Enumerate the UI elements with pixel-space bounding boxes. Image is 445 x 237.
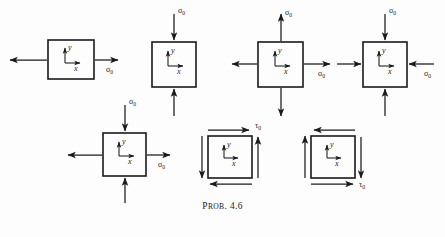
axis-label-y: y (226, 140, 231, 149)
stress-label-sigma-right: σ0 (318, 69, 325, 79)
stress-element-7: y x τ0 (305, 130, 365, 190)
axis-cross: y x (168, 46, 183, 76)
axis-label-x: x (387, 67, 392, 76)
axis-label-x: x (73, 64, 78, 73)
axis-cross: y x (65, 43, 80, 73)
axis-cross: y x (327, 140, 341, 168)
stress-label-sigma-right: σ0 (158, 160, 165, 170)
stress-element-4: y x σ0 σ0 (337, 6, 434, 116)
axis-label-y: y (277, 46, 282, 55)
axis-cross: y x (275, 46, 290, 76)
stress-element-5: y x σ0 σ0 (68, 97, 170, 203)
stress-label-sigma-top: σ0 (285, 8, 292, 18)
stress-element-1: y x σ0 (10, 40, 118, 79)
stress-element-2: y x σ0 (152, 6, 196, 116)
figure-caption: PROB. 4.6 (0, 201, 445, 211)
axis-label-y: y (67, 43, 72, 52)
axis-cross: y x (379, 46, 394, 76)
axis-label-y: y (329, 140, 334, 149)
axis-cross: y x (224, 140, 238, 168)
axis-label-y: y (121, 137, 126, 146)
stress-label-sigma-top: σ0 (389, 6, 396, 16)
stress-label-tau: τ0 (255, 121, 261, 131)
stress-label-tau: τ0 (359, 180, 365, 190)
axis-label-x: x (176, 67, 181, 76)
stress-element-3: y x σ0 σ0 (232, 8, 330, 116)
axis-label-x: x (127, 157, 132, 166)
caption-number: . 4.6 (225, 201, 243, 211)
axis-label-y: y (381, 46, 386, 55)
stress-label-sigma-top: σ0 (129, 97, 136, 107)
stress-label-sigma: σ0 (106, 65, 113, 75)
axis-label-x: x (334, 159, 339, 168)
stress-label-sigma: σ0 (178, 6, 185, 16)
axis-label-x: x (231, 159, 236, 168)
axis-cross: y x (119, 137, 134, 166)
stress-element-6: y x τ0 (202, 121, 261, 184)
stress-label-sigma-right: σ0 (424, 69, 431, 79)
axis-label-y: y (170, 46, 175, 55)
axis-label-x: x (283, 67, 288, 76)
caption-smallcaps: ROB (208, 202, 225, 211)
